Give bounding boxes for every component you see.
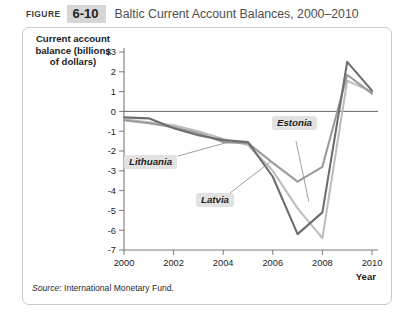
- series-label-lithuania: Lithuania: [124, 155, 177, 169]
- source-note: Source: International Monetary Fund.: [32, 283, 174, 293]
- series-label-latvia: Latvia: [196, 193, 234, 207]
- figure-header: FIGURE 6-10 Baltic Current Account Balan…: [26, 4, 398, 24]
- y-axis-title: Current account balance (billions of dol…: [30, 33, 116, 68]
- figure-title: Baltic Current Account Balances, 2000–20…: [115, 7, 359, 21]
- chart-panel: [22, 27, 392, 305]
- series-label-estonia: Estonia: [272, 116, 317, 130]
- source-prefix: Source: [32, 283, 59, 293]
- figure-container: FIGURE 6-10 Baltic Current Account Balan…: [0, 0, 418, 315]
- figure-word-label: FIGURE: [26, 9, 61, 19]
- figure-number-badge: 6-10: [67, 5, 106, 23]
- source-text: : International Monetary Fund.: [59, 283, 174, 293]
